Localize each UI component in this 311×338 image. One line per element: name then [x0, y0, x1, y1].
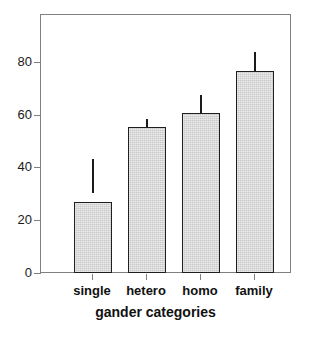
bar-single	[74, 202, 112, 273]
bar-family	[236, 71, 274, 273]
x-axis-tick-homo	[200, 274, 201, 280]
y-tick-label-20: 20	[2, 213, 32, 226]
y-axis-tick-0	[34, 273, 41, 274]
bar-hetero	[128, 127, 166, 273]
bar-homo	[182, 113, 220, 273]
error-bar-single	[92, 159, 94, 193]
x-axis-tick-hetero	[146, 274, 147, 280]
y-tick-label-40: 40	[2, 160, 32, 173]
y-tick-label-80: 80	[2, 55, 32, 68]
x-tick-label-homo: homo	[170, 283, 230, 298]
x-tick-label-hetero: hetero	[116, 283, 176, 298]
y-tick-label-60: 60	[2, 108, 32, 121]
x-tick-label-single: single	[62, 283, 122, 298]
plot-area	[40, 14, 291, 273]
cutoff-caption-text	[14, 331, 311, 338]
bar-chart-figure: 80 60 40 20 0 single hetero homo fa	[0, 0, 311, 338]
x-axis-title: gander categories	[0, 304, 311, 320]
x-axis-tick-family	[254, 274, 255, 280]
x-tick-label-family: family	[224, 283, 284, 298]
y-tick-label-0: 0	[2, 266, 32, 279]
cutoff-caption	[0, 331, 311, 338]
x-axis-tick-single	[92, 274, 93, 280]
